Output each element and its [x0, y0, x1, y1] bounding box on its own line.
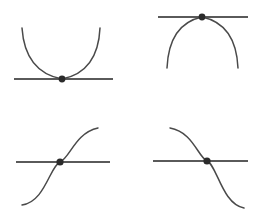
curve-cubic-increasing [22, 128, 98, 205]
tangent-point-inflection-increasing [56, 158, 63, 165]
tangent-point-minimum [59, 76, 66, 83]
panel-maximum [158, 14, 248, 68]
tangent-point-inflection-decreasing [203, 157, 210, 164]
tangent-cases-figure [0, 0, 267, 217]
curve-cubic-decreasing [170, 128, 244, 208]
panel-inflection-increasing [16, 128, 110, 205]
curve-parabola-down [167, 17, 238, 68]
panel-minimum [14, 28, 113, 82]
panel-inflection-decreasing [153, 128, 248, 208]
tangent-point-maximum [199, 14, 206, 21]
curve-parabola-up [22, 28, 100, 79]
figure-container [0, 0, 267, 217]
